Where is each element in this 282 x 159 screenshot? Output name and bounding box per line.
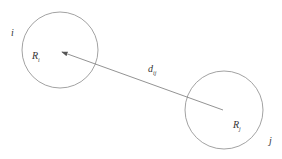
edge-label: dij — [148, 64, 156, 76]
edge-arrow — [62, 52, 223, 110]
node-j-label: j — [269, 136, 272, 146]
node-i-inner-label: Ri — [32, 51, 40, 63]
diagram-canvas — [0, 0, 282, 159]
node-i-label: i — [11, 28, 14, 38]
node-j-inner-label: Rj — [233, 120, 241, 132]
node-j-circle — [185, 71, 263, 149]
